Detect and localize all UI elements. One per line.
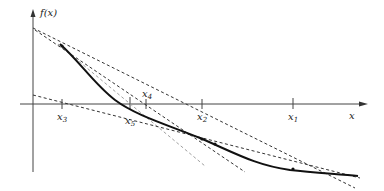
function-curve: [60, 44, 358, 176]
y-axis-label: f(x): [39, 7, 57, 18]
label-x1: x1: [288, 111, 298, 124]
x-axis-arrow-icon: [359, 102, 368, 107]
newton-method-diagram: f(x) x x3 x5 x4 x2 x1: [0, 0, 384, 191]
label-x2: x2: [197, 111, 208, 124]
curve-points: [60, 44, 294, 170]
tangent-light: [58, 44, 205, 166]
x-axis-label: x: [349, 110, 355, 121]
label-x4: x4: [142, 88, 152, 101]
tangent-lines: [33, 28, 360, 188]
label-x5: x5: [125, 115, 136, 128]
label-x3: x3: [57, 111, 68, 124]
y-axis-arrow-icon: [31, 9, 36, 17]
